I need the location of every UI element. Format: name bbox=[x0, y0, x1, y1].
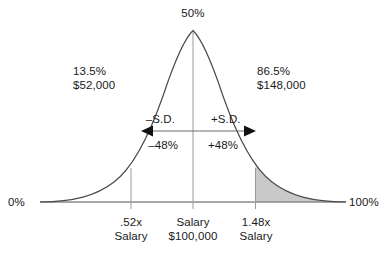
tick-label-mid-caption: $100,000 bbox=[169, 229, 218, 243]
tick-label-high-multiplier: 1.48x bbox=[239, 215, 272, 229]
tick-label-low-caption: Salary bbox=[114, 229, 147, 243]
left-tail-annotation: 13.5% $52,000 bbox=[73, 64, 115, 92]
left-percent-label: 13.5% bbox=[73, 64, 115, 78]
axis-min-label: 0% bbox=[8, 195, 25, 209]
bell-curve-figure: 50% 13.5% $52,000 86.5% $148,000 0% 100%… bbox=[0, 0, 392, 264]
tick-label-low: .52x Salary bbox=[114, 215, 147, 243]
tick-label-mid: Salary $100,000 bbox=[169, 215, 218, 243]
std-dev-arrow-positive bbox=[193, 126, 256, 137]
tick-label-low-multiplier: .52x bbox=[114, 215, 147, 229]
std-dev-negative-percent-label: –48% bbox=[148, 138, 178, 152]
tick-label-high: 1.48x Salary bbox=[239, 215, 272, 243]
std-dev-positive-percent-label: +48% bbox=[208, 138, 238, 152]
tick-label-high-caption: Salary bbox=[239, 229, 272, 243]
std-dev-negative-label: –S.D. bbox=[146, 112, 175, 126]
right-percent-label: 86.5% bbox=[257, 64, 306, 78]
tick-label-mid-multiplier: Salary bbox=[169, 215, 218, 229]
left-amount-label: $52,000 bbox=[73, 78, 115, 92]
peak-percentile-label: 50% bbox=[181, 6, 204, 20]
std-dev-positive-label: +S.D. bbox=[211, 112, 241, 126]
right-amount-label: $148,000 bbox=[257, 78, 306, 92]
right-tail-annotation: 86.5% $148,000 bbox=[257, 64, 306, 92]
std-dev-arrow-negative bbox=[141, 126, 193, 137]
axis-max-label: 100% bbox=[349, 195, 379, 209]
